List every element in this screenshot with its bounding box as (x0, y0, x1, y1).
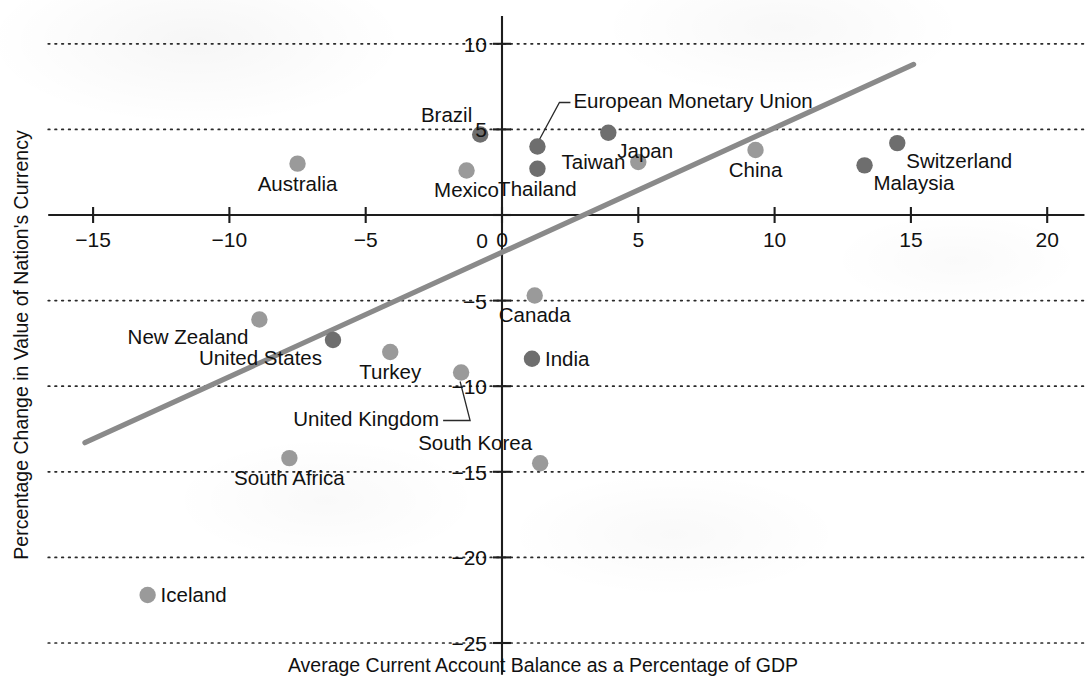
x-tick-label-5: 5 (632, 228, 644, 251)
data-point-japan (600, 125, 616, 141)
point-label-malaysia: Malaysia (874, 171, 955, 194)
y-axis-title: Percentage Change in Value of Nation's C… (10, 130, 32, 560)
point-label-india: India (545, 347, 590, 370)
x-tick-label--5: −5 (354, 228, 378, 251)
x-tick-label-0: 0 (496, 228, 508, 251)
point-label-iceland: Iceland (161, 583, 227, 606)
y-tick-label-10: 10 (464, 33, 487, 56)
data-point-new-zealand (251, 311, 267, 327)
point-label-new-zealand: New Zealand (128, 325, 249, 348)
data-point-south-korea (532, 455, 548, 471)
leader-line-emu (539, 103, 570, 140)
data-point-south-africa (281, 450, 297, 466)
y-tick-label--15: −15 (451, 461, 487, 484)
y-tick-label--25: −25 (451, 632, 487, 655)
data-point-canada (527, 287, 543, 303)
x-tick-label-15: 15 (899, 228, 922, 251)
x-tick-label-20: 20 (1036, 228, 1059, 251)
point-label-south-africa: South Africa (234, 466, 345, 489)
point-label-australia: Australia (258, 172, 338, 195)
point-label-european-monetary-union: European Monetary Union (573, 89, 812, 112)
point-label-turkey: Turkey (359, 360, 422, 383)
data-point-united-states (325, 332, 341, 348)
y-tick-label--10: −10 (451, 375, 487, 398)
data-point-switzerland (889, 135, 905, 151)
data-point-mexico (458, 162, 474, 178)
data-point-australia (289, 155, 305, 171)
chart-canvas: −15−10−5051015201050−5−10−15−20−25 Austr… (0, 0, 1087, 685)
point-label-thailand: Thailand (498, 177, 577, 200)
data-point-china (747, 142, 763, 158)
y-tick-label--20: −20 (451, 546, 487, 569)
data-point-turkey (382, 344, 398, 360)
point-label-china: China (729, 158, 783, 181)
scatter-plot-figure: −15−10−5051015201050−5−10−15−20−25 Austr… (0, 0, 1087, 685)
x-tick-label-10: 10 (763, 228, 786, 251)
point-label-taiwan: Taiwan (561, 150, 625, 173)
point-label-brazil: Brazil (421, 103, 472, 126)
y-tick-label-5: 5 (475, 118, 487, 141)
data-point-european-monetary-union (529, 138, 545, 154)
point-label-south-korea: South Korea (418, 431, 533, 454)
x-tick-label--15: −15 (75, 228, 111, 251)
point-label-united-kingdom: United Kingdom (293, 407, 439, 430)
x-tick-label--10: −10 (212, 228, 248, 251)
point-label-mexico: Mexico (434, 178, 499, 201)
data-point-india (524, 351, 540, 367)
data-point-iceland (139, 587, 155, 603)
point-label-japan: Japan (617, 139, 673, 162)
y-tick-label--5: −5 (463, 290, 487, 313)
point-label-canada: Canada (499, 303, 571, 326)
point-label-switzerland: Switzerland (906, 149, 1012, 172)
point-label-united-states: United States (199, 346, 322, 369)
point-labels-group: AustraliaNew ZealandUnited StatesMexicoB… (128, 89, 1013, 607)
x-axis-title: Average Current Account Balance as a Per… (288, 654, 798, 676)
y-tick-label-0: 0 (476, 229, 488, 252)
data-point-malaysia (856, 157, 872, 173)
data-point-thailand (529, 161, 545, 177)
